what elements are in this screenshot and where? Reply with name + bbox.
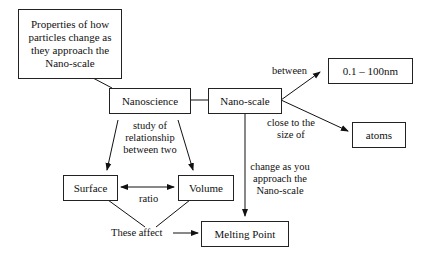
node-properties: Properties of how particles change as th… — [18, 9, 122, 79]
node-atoms-label: atoms — [366, 129, 392, 142]
node-range: 0.1 – 100nm — [328, 58, 413, 84]
edge-label-study-line1: study of — [120, 120, 180, 132]
edge-label-change-line3: Nano-scale — [248, 185, 312, 197]
edge-label-close-line2: size of — [267, 129, 315, 141]
node-melting-point-label: Melting Point — [215, 228, 276, 241]
node-atoms: atoms — [352, 122, 406, 148]
node-range-label: 0.1 – 100nm — [343, 65, 398, 78]
node-volume-label: Volume — [189, 182, 223, 195]
node-surface: Surface — [63, 175, 118, 201]
node-melting-point: Melting Point — [201, 221, 289, 247]
edge-label-change-line2: approach the — [248, 173, 312, 185]
node-surface-label: Surface — [74, 182, 108, 195]
edge-label-ratio: ratio — [139, 193, 158, 205]
node-nanoscience: Nanoscience — [109, 88, 191, 114]
edge-label-these-affect: These affect — [111, 227, 162, 239]
edge-label-change: change as you approach the Nano-scale — [248, 161, 312, 197]
edge-label-study: study of relationship between two — [120, 120, 180, 156]
edge-label-study-line3: between two — [120, 144, 180, 156]
node-nanoscale-label: Nano-scale — [220, 95, 269, 108]
edge-label-change-line1: change as you — [248, 161, 312, 173]
node-nanoscience-label: Nanoscience — [122, 95, 178, 108]
edge-label-between: between — [272, 65, 307, 77]
edge-label-close-to-size: close to the size of — [267, 117, 315, 141]
edge-label-close-line1: close to the — [267, 117, 315, 129]
edge-label-study-line2: relationship — [120, 132, 180, 144]
node-properties-label: Properties of how particles change as th… — [19, 18, 121, 70]
node-nanoscale: Nano-scale — [208, 88, 282, 114]
node-volume: Volume — [178, 175, 234, 201]
